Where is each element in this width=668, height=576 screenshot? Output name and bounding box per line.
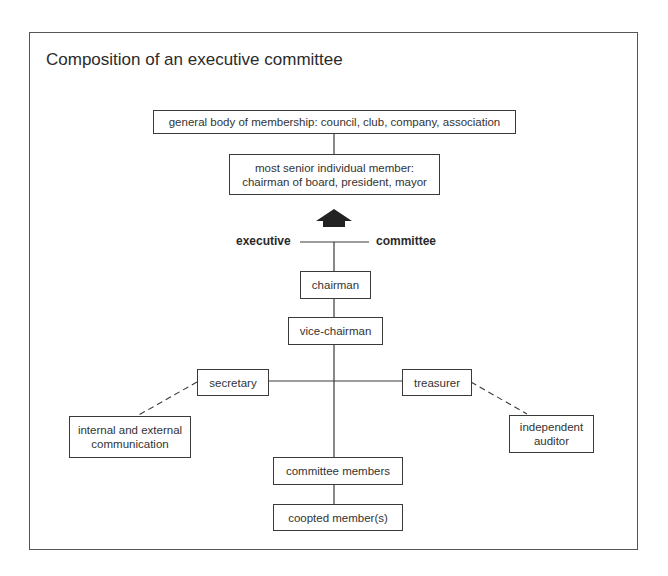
vice-chairman-box: vice-chairman (288, 317, 383, 345)
executive-label: executive (236, 234, 291, 248)
communication-label-line2: communication (91, 437, 168, 451)
communication-label-line1: internal and external (78, 423, 182, 437)
chairman-box: chairman (300, 271, 371, 299)
committee-members-box: committee members (273, 457, 403, 485)
communication-box: internal and external communication (69, 416, 191, 458)
committee-members-label: committee members (286, 464, 390, 478)
general-body-label: general body of membership: council, clu… (169, 115, 501, 129)
coopted-members-label: coopted member(s) (288, 511, 388, 525)
auditor-box: independent auditor (509, 415, 594, 453)
coopted-members-box: coopted member(s) (273, 504, 403, 531)
senior-member-label-line1: most senior individual member: (255, 161, 414, 175)
secretary-box: secretary (197, 369, 269, 396)
committee-label: committee (376, 234, 436, 248)
vice-chairman-label: vice-chairman (300, 324, 372, 338)
general-body-box: general body of membership: council, clu… (153, 110, 516, 134)
auditor-label-line1: independent (520, 420, 583, 434)
chairman-label: chairman (312, 278, 359, 292)
senior-member-label-line2: chairman of board, president, mayor (242, 175, 427, 189)
senior-member-box: most senior individual member: chairman … (229, 154, 440, 195)
treasurer-label: treasurer (414, 376, 460, 390)
secretary-label: secretary (209, 376, 256, 390)
up-arrow-icon (316, 209, 352, 227)
treasurer-box: treasurer (402, 369, 472, 396)
auditor-label-line2: auditor (534, 434, 569, 448)
